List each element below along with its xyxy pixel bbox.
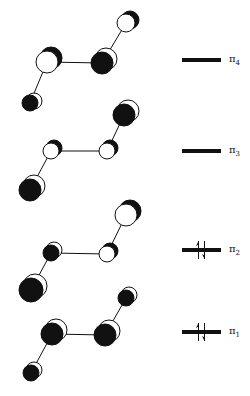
p-orbital-lobe-pair xyxy=(19,274,47,302)
p-orbital-lobe-pair xyxy=(113,100,139,126)
orbital-pi4 xyxy=(22,11,221,111)
p-orbital-lobe-pair xyxy=(43,140,62,159)
front-lobe xyxy=(23,365,39,381)
p-orbital-lobe-pair xyxy=(91,48,117,74)
p-orbital-lobe-pair xyxy=(99,140,118,159)
orbital-pi1 xyxy=(23,287,221,381)
p-orbital-lobe-pair xyxy=(36,47,62,73)
orbital-pi3 xyxy=(19,100,221,201)
front-lobe xyxy=(36,51,58,73)
label-pi1: π1 xyxy=(229,325,240,339)
front-lobe xyxy=(118,290,134,306)
front-lobe xyxy=(113,104,135,126)
label-pi4: π4 xyxy=(229,53,240,67)
energy-level-bar xyxy=(182,330,221,334)
energy-level-bar xyxy=(182,58,221,62)
energy-level-bar xyxy=(182,149,221,153)
p-orbital-lobe-pair xyxy=(19,175,45,201)
p-orbital-lobe-pair xyxy=(94,320,120,346)
p-orbital-lobe-pair xyxy=(118,287,137,306)
p-orbital-lobe-pair xyxy=(23,362,42,381)
front-lobe xyxy=(94,324,116,346)
label-pi2: π2 xyxy=(229,243,240,257)
front-lobe xyxy=(115,204,137,226)
label-pi3: π3 xyxy=(229,144,240,158)
front-lobe xyxy=(19,278,43,302)
p-orbital-lobe-pair xyxy=(115,200,141,226)
p-orbital-lobe-pair xyxy=(41,319,67,345)
p-orbital-lobe-pair xyxy=(43,242,62,261)
front-lobe xyxy=(43,143,59,159)
front-lobe xyxy=(22,95,38,111)
orbital-pi2 xyxy=(19,200,221,302)
front-lobe xyxy=(19,179,41,201)
p-orbital-lobe-pair xyxy=(22,93,42,111)
front-lobe xyxy=(99,246,115,262)
energy-level-bar xyxy=(182,248,221,252)
front-lobe xyxy=(41,323,63,345)
front-lobe xyxy=(43,245,59,261)
p-orbital-lobe-pair xyxy=(99,243,118,262)
front-lobe xyxy=(117,14,135,32)
front-lobe xyxy=(91,52,113,74)
mo-diagram xyxy=(0,0,250,396)
p-orbital-lobe-pair xyxy=(117,11,139,32)
front-lobe xyxy=(99,143,115,159)
